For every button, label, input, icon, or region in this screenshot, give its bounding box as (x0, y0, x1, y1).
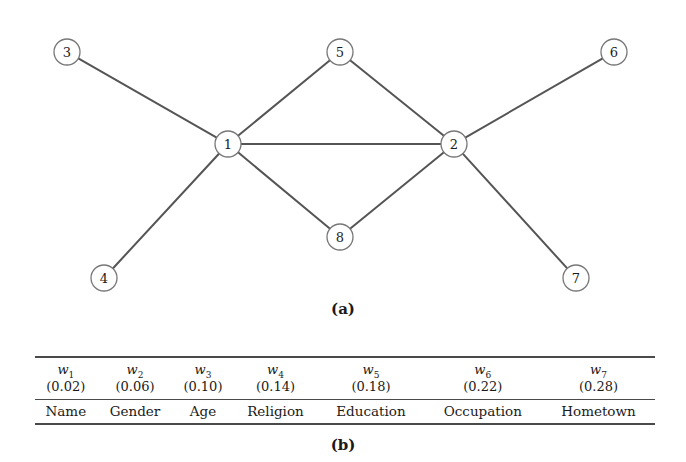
weight-symbol-7: w7 (542, 357, 655, 380)
table-row-weight-values: (0.02)(0.06)(0.10)(0.14)(0.18)(0.22)(0.2… (35, 380, 655, 399)
graph-edge-7-2 (463, 154, 568, 269)
graph-node-circle-1 (215, 131, 241, 157)
graph-node-circle-8 (327, 224, 353, 250)
weight-symbol-5: w5 (318, 357, 423, 380)
graph-node-circle-5 (327, 39, 353, 65)
table-bottom-rule (35, 424, 655, 425)
graph-edge-3-1 (78, 58, 216, 137)
graph-node-circle-6 (601, 39, 627, 65)
graph-edge-5-1 (238, 60, 330, 136)
weight-value-1: (0.02) (35, 380, 97, 399)
graph-edge-6-2 (465, 58, 602, 137)
weights-table-panel: w1w2w3w4w5w6w7 (0.02)(0.06)(0.10)(0.14)(… (35, 356, 655, 425)
graph-node-3[interactable]: 3 (54, 39, 80, 65)
graph-node-6[interactable]: 6 (601, 39, 627, 65)
table-bottom-rule-cell-7 (542, 424, 655, 425)
weight-symbol-letter-2: w (127, 362, 138, 377)
weights-table: w1w2w3w4w5w6w7 (0.02)(0.06)(0.10)(0.14)(… (35, 356, 655, 425)
attribute-name-6: Occupation (424, 399, 542, 424)
weight-value-3: (0.10) (173, 380, 232, 399)
weight-value-6: (0.22) (424, 380, 542, 399)
graph-node-8[interactable]: 8 (327, 224, 353, 250)
table-bottom-rule-cell-3 (173, 424, 232, 425)
attribute-name-4: Religion (233, 399, 319, 424)
figure-container: 12345678 (a) w1w2w3w4w5w6w7 (0.02)(0.06)… (0, 0, 686, 462)
graph-edge-8-2 (350, 152, 444, 229)
table-bottom-rule-cell-6 (424, 424, 542, 425)
panel-a-caption: (a) (0, 300, 686, 318)
graph-edge-5-2 (350, 60, 444, 136)
weight-symbol-letter-4: w (267, 362, 278, 377)
graph-node-1[interactable]: 1 (215, 131, 241, 157)
graph-node-7[interactable]: 7 (563, 265, 589, 291)
graph-edge-4-1 (113, 154, 219, 269)
weight-value-7: (0.28) (542, 380, 655, 399)
graph-diagram: 12345678 (0, 0, 686, 296)
panel-b-caption: (b) (0, 436, 686, 454)
weight-symbol-letter-5: w (363, 362, 374, 377)
weight-symbol-2: w2 (97, 357, 174, 380)
graph-node-circle-4 (91, 265, 117, 291)
graph-node-circle-7 (563, 265, 589, 291)
table-bottom-rule-cell-4 (233, 424, 319, 425)
weight-value-5: (0.18) (318, 380, 423, 399)
weight-symbol-6: w6 (424, 357, 542, 380)
weight-symbol-4: w4 (233, 357, 319, 380)
weight-symbol-letter-1: w (57, 362, 68, 377)
node-layer: 12345678 (54, 39, 627, 291)
table-bottom-rule-cell-1 (35, 424, 97, 425)
table-bottom-rule-cell-5 (318, 424, 423, 425)
graph-node-4[interactable]: 4 (91, 265, 117, 291)
graph-edge-1-8 (238, 152, 330, 228)
graph-node-circle-3 (54, 39, 80, 65)
table-row-weight-symbols: w1w2w3w4w5w6w7 (35, 357, 655, 380)
attribute-name-3: Age (173, 399, 232, 424)
table-row-attributes: NameGenderAgeReligionEducationOccupation… (35, 399, 655, 424)
weight-symbol-1: w1 (35, 357, 97, 380)
attribute-name-1: Name (35, 399, 97, 424)
table-bottom-rule-cell-2 (97, 424, 174, 425)
attribute-name-7: Hometown (542, 399, 655, 424)
graph-node-5[interactable]: 5 (327, 39, 353, 65)
weight-symbol-3: w3 (173, 357, 232, 380)
graph-node-2[interactable]: 2 (441, 131, 467, 157)
graph-node-circle-2 (441, 131, 467, 157)
graph-panel: 12345678 (0, 0, 686, 296)
weight-value-4: (0.14) (233, 380, 319, 399)
attribute-name-5: Education (318, 399, 423, 424)
weight-symbol-letter-3: w (194, 362, 205, 377)
weight-symbol-letter-7: w (590, 362, 601, 377)
weight-value-2: (0.06) (97, 380, 174, 399)
weight-symbol-letter-6: w (474, 362, 485, 377)
attribute-name-2: Gender (97, 399, 174, 424)
